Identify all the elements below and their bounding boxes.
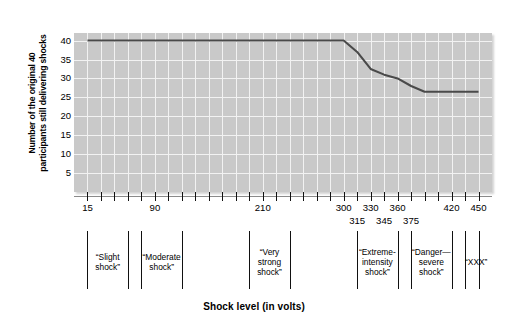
x-axis-tick	[479, 192, 480, 201]
x-axis-tick	[452, 192, 453, 201]
x-axis-tick	[290, 192, 291, 201]
data-line-svg	[74, 33, 492, 192]
category-label-line: “Moderate	[141, 252, 181, 262]
y-axis-tick-label: 40	[45, 36, 71, 46]
category-label: “Extreme-intensityshock”	[357, 247, 397, 278]
x-axis-tick	[101, 192, 102, 201]
y-axis-title-line-1: Number of the original 40	[27, 3, 38, 203]
y-axis-tick-label: 10	[45, 149, 71, 159]
x-axis-tick-label: 210	[248, 203, 278, 213]
x-axis-tick-label: 450	[464, 203, 494, 213]
category-label: “Moderateshock”	[141, 252, 181, 272]
x-axis-tick	[141, 192, 142, 201]
x-axis-tick	[155, 192, 156, 201]
x-axis-tick	[87, 192, 88, 201]
x-axis-tick	[425, 192, 426, 201]
category-label-line: “XXX”	[465, 257, 478, 267]
x-axis-tick-label: 90	[140, 203, 170, 213]
category-label-line: “Slight	[87, 252, 127, 262]
category-label: “Danger—severeshock”	[411, 247, 451, 278]
category-label-line: shock”	[249, 267, 289, 277]
category-label-line: shock”	[87, 262, 127, 272]
x-axis-tick	[182, 192, 183, 201]
x-axis-tick-label: 330	[356, 203, 386, 213]
x-axis-tick	[209, 192, 210, 201]
x-axis-tick	[398, 192, 399, 201]
x-axis-tick-label: 360	[383, 203, 413, 213]
x-axis-title: Shock level (in volts)	[0, 301, 508, 312]
x-axis-tick-label: 420	[437, 203, 467, 213]
y-axis-tick-label: 30	[45, 73, 71, 83]
y-axis-tick-label: 25	[45, 92, 71, 102]
x-axis-tick	[276, 192, 277, 201]
y-axis-tick-label: 15	[45, 130, 71, 140]
x-axis-tick-label: 315	[342, 216, 372, 226]
category-label-line: shock”	[411, 267, 451, 277]
y-axis-tick-label: 20	[45, 111, 71, 121]
x-axis-tick	[236, 192, 237, 201]
x-axis-tick	[303, 192, 304, 201]
x-axis-tick	[384, 192, 385, 201]
x-axis-tick-label: 15	[72, 203, 102, 213]
x-axis-tick	[330, 192, 331, 201]
x-axis-tick	[114, 192, 115, 201]
x-axis-tick-label: 300	[329, 203, 359, 213]
milgram-obedience-chart: Number of the original 40 participants s…	[0, 0, 508, 322]
category-bracket-line	[398, 231, 399, 289]
x-axis-tick	[168, 192, 169, 201]
x-axis-tick	[249, 192, 250, 201]
category-label-line: “Extreme-	[357, 247, 397, 257]
x-axis-tick	[195, 192, 196, 201]
x-axis-tick	[411, 192, 412, 201]
category-label-line: strong	[249, 257, 289, 267]
category-label: “Verystrongshock”	[249, 247, 289, 278]
x-axis-tick	[371, 192, 372, 201]
category-label-line: shock”	[357, 267, 397, 277]
category-label-line: severe	[411, 257, 451, 267]
category-label-line: intensity	[357, 257, 397, 267]
category-label-line: shock”	[141, 262, 181, 272]
x-axis-tick	[128, 192, 129, 201]
x-axis-tick	[263, 192, 264, 201]
category-label: “Slightshock”	[87, 252, 127, 272]
plot-area	[74, 33, 492, 192]
category-bracket-line	[182, 231, 183, 289]
x-axis-tick-label: 345	[369, 216, 399, 226]
category-label: “XXX”	[465, 257, 478, 267]
category-label-line: “Very	[249, 247, 289, 257]
x-axis-tick	[438, 192, 439, 201]
x-axis-tick	[465, 192, 466, 201]
x-axis-tick-label: 375	[396, 216, 426, 226]
x-axis-tick	[222, 192, 223, 201]
x-axis-line	[74, 196, 492, 197]
x-axis-tick	[357, 192, 358, 201]
x-axis-tick	[344, 192, 345, 201]
category-bracket-line	[290, 231, 291, 289]
category-bracket-line	[452, 231, 453, 289]
x-axis-tick	[317, 192, 318, 201]
y-axis-tick-label: 35	[45, 55, 71, 65]
obedience-series-line	[87, 41, 478, 92]
y-axis-tick-label: 5	[45, 168, 71, 178]
category-label-line: “Danger—	[411, 247, 451, 257]
category-bracket-line	[128, 231, 129, 289]
